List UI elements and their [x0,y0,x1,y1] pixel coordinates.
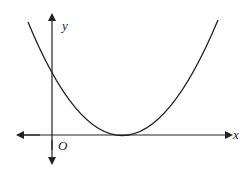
coordinate-graph: y x O [0,0,245,169]
parabola-curve [28,20,218,136]
x-axis-label: x [232,127,239,142]
y-axis-label: y [60,18,68,33]
origin-label: O [58,138,68,153]
